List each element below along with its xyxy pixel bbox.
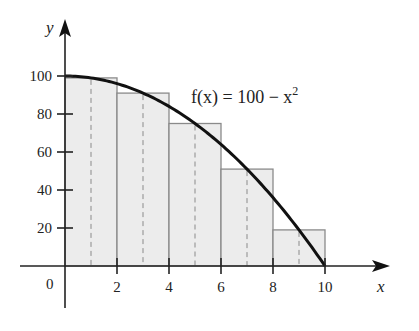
x-tick-label: 8 (269, 279, 277, 295)
x-tick-label: 2 (113, 279, 121, 295)
function-label-exponent: 2 (292, 84, 298, 98)
x-axis-label: x (376, 277, 385, 296)
x-tick-label: 6 (217, 279, 225, 295)
y-tick-label: 60 (37, 144, 52, 160)
y-tick-label: 100 (30, 68, 53, 84)
y-tick-label: 80 (37, 106, 52, 122)
y-axis-label: y (44, 18, 54, 37)
origin-label: 0 (46, 276, 54, 292)
x-tick-label: 10 (318, 279, 333, 295)
riemann-sum-chart: 246810 20406080100 x y 0 f(x) = 100 − x2 (0, 0, 419, 331)
y-tick-label: 20 (37, 220, 52, 236)
function-label-text: f(x) = 100 − x (191, 87, 292, 108)
function-label: f(x) = 100 − x2 (191, 84, 298, 108)
y-tick-label: 40 (37, 182, 52, 198)
x-tick-label: 4 (165, 279, 173, 295)
